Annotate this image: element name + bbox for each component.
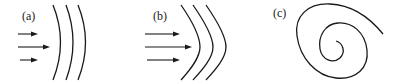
panel-a-arrows — [18, 32, 50, 63]
panel-a-label: (a) — [22, 9, 35, 23]
panel-a: (a) — [18, 5, 86, 80]
arrowhead-icon — [31, 58, 38, 63]
chevron-wavefront — [206, 5, 226, 80]
chevron-wavefront — [193, 5, 213, 80]
panel-b-label: (b) — [153, 9, 167, 23]
panel-b: (b) — [145, 5, 226, 80]
spiral-curve — [297, 4, 383, 78]
arrowhead-icon — [31, 32, 38, 37]
panel-a-wavefronts — [53, 5, 86, 80]
panel-b-wavefronts — [181, 5, 226, 80]
figure-canvas: (a) (b) — [0, 0, 400, 84]
arrowhead-icon — [173, 58, 180, 63]
wavefront-curve — [53, 5, 61, 80]
chevron-wavefront — [181, 5, 200, 80]
arrowhead-icon — [173, 32, 180, 37]
wavefront-curve — [66, 5, 73, 80]
panel-b-arrows — [145, 32, 192, 63]
panel-c-label: (c) — [273, 6, 286, 20]
wavefront-curve — [78, 5, 86, 80]
arrowhead-icon — [43, 45, 50, 50]
panel-c: (c) — [273, 4, 383, 78]
arrowhead-icon — [185, 45, 192, 50]
